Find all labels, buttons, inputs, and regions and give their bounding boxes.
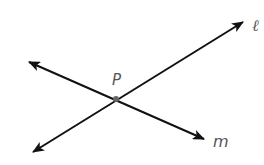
line-l-label: ℓ — [252, 16, 259, 35]
line-l — [33, 22, 243, 152]
point-p-label: P — [112, 71, 122, 89]
intersecting-lines-diagram: P ℓ m — [0, 0, 264, 165]
line-m-label: m — [213, 132, 229, 151]
point-p — [113, 96, 119, 102]
